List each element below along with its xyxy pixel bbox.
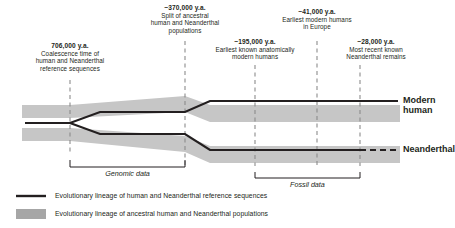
annotation-earliest-amh: ~195,000 y.a. Earliest known anatomicall…: [192, 38, 318, 61]
ancestral-band-lower-stem: [22, 128, 185, 152]
annotation-desc-line: populations: [131, 27, 239, 34]
lineage-label-modern-human-line1: Modern: [403, 95, 436, 105]
annotation-last-neanderthal: ~28,000 y.a. Most recent known Neanderth…: [320, 38, 432, 61]
annotation-desc-line: Most recent known: [320, 46, 432, 53]
bracket-fossil-data: [255, 172, 360, 178]
legend-swatches: [16, 196, 46, 219]
annotation-desc-line: Earliest modern humans: [265, 16, 369, 23]
bracket-genomic-data: [70, 160, 185, 167]
annotation-desc-line: human and Neanderthal: [10, 57, 130, 64]
annotation-coalescence: 706,000 y.a. Coalescence time of human a…: [10, 42, 130, 72]
annotation-split: ~370,000 y.a. Split of ancestral human a…: [131, 4, 239, 34]
lineage-label-modern-human: Modern human: [403, 95, 436, 116]
annotation-years: ~28,000 y.a.: [320, 38, 432, 46]
annotation-desc-line: Earliest known anatomically: [192, 46, 318, 53]
annotation-years: ~41,000 y.a.: [265, 8, 369, 16]
annotation-desc-line: modern humans: [192, 53, 318, 60]
annotation-europe-arrival: ~41,000 y.a. Earliest modern humans in E…: [265, 8, 369, 31]
legend-item-reference-sequences: Evolutionary lineage of human and Neande…: [55, 192, 267, 199]
annotation-years: ~195,000 y.a.: [192, 38, 318, 46]
bracket-label-genomic-data: Genomic data: [77, 169, 178, 178]
legend-item-ancestral-populations: Evolutionary lineage of ancestral human …: [55, 210, 268, 217]
annotation-desc-line: reference sequences: [10, 65, 130, 72]
annotation-desc-line: in Europe: [265, 23, 369, 30]
ancestral-population-bands: [22, 96, 400, 163]
annotation-desc-line: human and Neanderthal: [131, 19, 239, 26]
legend-band-swatch: [16, 209, 46, 219]
annotation-years: ~370,000 y.a.: [131, 4, 239, 12]
annotation-desc-line: Coalescence time of: [10, 50, 130, 57]
lineage-label-neanderthal: Neanderthal: [403, 144, 455, 154]
bracket-label-fossil-data: Fossil data: [257, 180, 358, 189]
ancestral-band-upper-stem: [22, 96, 185, 118]
annotation-years: 706,000 y.a.: [10, 42, 130, 50]
lineage-label-modern-human-line2: human: [403, 105, 436, 115]
annotation-desc-line: Split of ancestral: [131, 12, 239, 19]
annotation-desc-line: Neanderthal remains: [320, 53, 432, 60]
